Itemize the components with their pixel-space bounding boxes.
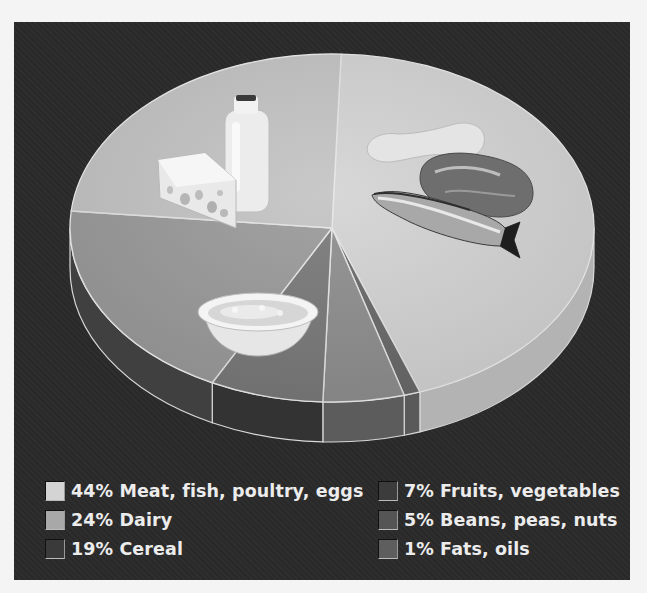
pie-chart xyxy=(0,0,647,593)
pie-side-segment xyxy=(404,392,420,435)
